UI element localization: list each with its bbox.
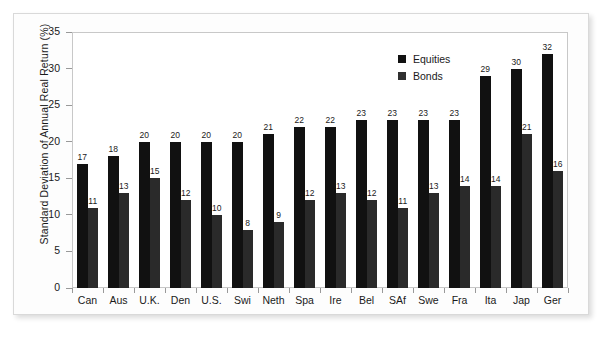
- bar-group: 3021: [511, 32, 532, 288]
- bar-value-label: 23: [348, 108, 374, 118]
- y-axis-tick-label: 20: [20, 135, 60, 147]
- bar-value-label: 13: [111, 181, 137, 191]
- x-axis-tick-mark: [475, 288, 476, 293]
- bar-value-label: 20: [193, 130, 219, 140]
- bar-bonds: [336, 193, 347, 288]
- y-axis-tick-label: 15: [20, 171, 60, 183]
- bar-equities: [294, 127, 305, 288]
- bar-value-label: 23: [441, 108, 467, 118]
- bar-equities: [139, 142, 150, 288]
- x-axis-tick-mark: [351, 288, 352, 293]
- bar-value-label: 13: [421, 181, 447, 191]
- bar-equities: [542, 54, 553, 288]
- bar-bonds: [181, 200, 192, 288]
- bar-group: 2213: [325, 32, 346, 288]
- bar-value-label: 30: [503, 57, 529, 67]
- x-axis-tick-mark: [72, 288, 73, 293]
- bar-equities: [201, 142, 212, 288]
- bar-equities: [108, 156, 119, 288]
- bar-value-label: 12: [173, 188, 199, 198]
- bar-equities: [511, 69, 522, 288]
- bar-group: 2012: [170, 32, 191, 288]
- bar-value-label: 10: [204, 203, 230, 213]
- bar-value-label: 8: [235, 218, 261, 228]
- x-axis-tick-mark: [165, 288, 166, 293]
- x-axis-tick-mark: [382, 288, 383, 293]
- x-axis-tick-mark: [413, 288, 414, 293]
- bar-bonds: [305, 200, 316, 288]
- x-axis-tick-mark: [258, 288, 259, 293]
- y-axis-tick-label: 30: [20, 62, 60, 74]
- legend-swatch-bonds: [398, 72, 406, 80]
- bar-value-label: 16: [545, 159, 571, 169]
- bar-equities: [232, 142, 243, 288]
- bar-bonds: [212, 215, 223, 288]
- figure-root: Standard Deviation of Annual Real Return…: [0, 0, 607, 337]
- bar-bonds: [119, 193, 130, 288]
- bar-value-label: 12: [297, 188, 323, 198]
- bar-value-label: 20: [131, 130, 157, 140]
- bar-value-label: 23: [379, 108, 405, 118]
- x-axis-tick-label: Ger: [533, 294, 573, 306]
- y-axis-tick-label: 10: [20, 208, 60, 220]
- bar-group: 219: [263, 32, 284, 288]
- bar-value-label: 17: [69, 152, 95, 162]
- bar-group: 3216: [542, 32, 563, 288]
- x-axis-tick-mark: [134, 288, 135, 293]
- y-axis-tick-label: 35: [20, 25, 60, 37]
- x-axis-tick-mark: [289, 288, 290, 293]
- bar-group: 2312: [356, 32, 377, 288]
- bar-equities: [170, 142, 181, 288]
- y-axis-tick-label: 5: [20, 244, 60, 256]
- bar-value-label: 15: [142, 166, 168, 176]
- bar-group: 2015: [139, 32, 160, 288]
- bar-group: 1711: [77, 32, 98, 288]
- bar-bonds: [522, 134, 533, 288]
- chart-legend: Equities Bonds: [398, 50, 498, 84]
- legend-swatch-equities: [398, 55, 406, 63]
- y-axis-tick-label: 25: [20, 98, 60, 110]
- bar-value-label: 21: [255, 122, 281, 132]
- bar-bonds: [150, 178, 161, 288]
- bar-value-label: 14: [483, 174, 509, 184]
- bar-bonds: [553, 171, 564, 288]
- bar-group: 2010: [201, 32, 222, 288]
- bar-group: 2212: [294, 32, 315, 288]
- legend-item-equities: Equities: [398, 50, 498, 67]
- legend-label-equities: Equities: [413, 53, 450, 65]
- bar-value-label: 32: [534, 42, 560, 52]
- bar-group: 1813: [108, 32, 129, 288]
- bar-value-label: 18: [100, 144, 126, 154]
- bar-value-label: 20: [224, 130, 250, 140]
- bar-value-label: 11: [80, 196, 106, 206]
- x-axis-labels: CanAusU.K.DenU.S.SwiNethSpaIreBelSAfSweF…: [72, 294, 568, 312]
- bar-value-label: 20: [162, 130, 188, 140]
- bar-value-label: 22: [286, 115, 312, 125]
- legend-label-bonds: Bonds: [413, 70, 443, 82]
- bar-value-label: 22: [317, 115, 343, 125]
- bar-value-label: 12: [359, 188, 385, 198]
- bar-bonds: [274, 222, 285, 288]
- bar-bonds: [367, 200, 378, 288]
- x-axis-tick-mark: [444, 288, 445, 293]
- bar-bonds: [460, 186, 471, 288]
- bar-bonds: [429, 193, 440, 288]
- x-axis-tick-mark: [227, 288, 228, 293]
- bar-value-label: 9: [266, 210, 292, 220]
- bar-chart: Standard Deviation of Annual Real Return…: [0, 0, 607, 337]
- bar-value-label: 21: [514, 122, 540, 132]
- bar-value-label: 23: [410, 108, 436, 118]
- bar-bonds: [243, 230, 254, 289]
- x-axis-tick-mark: [196, 288, 197, 293]
- bar-value-label: 13: [328, 181, 354, 191]
- x-axis-tick-mark: [103, 288, 104, 293]
- x-axis-tick-mark: [506, 288, 507, 293]
- bar-group: 208: [232, 32, 253, 288]
- bar-equities: [77, 164, 88, 288]
- y-axis-tick-label: 0: [20, 281, 60, 293]
- bar-value-label: 11: [390, 196, 416, 206]
- bar-equities: [325, 127, 336, 288]
- bar-value-label: 14: [452, 174, 478, 184]
- bar-equities: [356, 120, 367, 288]
- legend-item-bonds: Bonds: [398, 67, 498, 84]
